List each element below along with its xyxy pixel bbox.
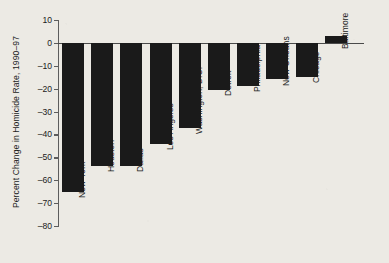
homicide-rate-change-bar-chart: Percent Change in Homicide Rate, 1990–97… [0, 0, 389, 263]
category-label: Philadelphia [252, 45, 262, 92]
y-tick-label: –70 [38, 198, 52, 208]
y-tick-label: –10 [38, 61, 52, 71]
category-label: Dallas [135, 149, 145, 173]
category-label: Houston [106, 140, 116, 172]
y-tick-label: 10 [42, 15, 52, 25]
y-tick-mark [54, 180, 59, 181]
plot-area: 100–10–20–30–40–50–60–70–80 New YorkHous… [58, 20, 368, 226]
category-label: New York [77, 161, 87, 197]
category-label: Los Angeles [165, 103, 175, 150]
category-label: Chicago [311, 52, 321, 84]
y-tick-mark [54, 112, 59, 113]
category-label: Detroit [223, 70, 233, 95]
category-label: New Orleans [281, 36, 291, 86]
y-tick-mark [54, 66, 59, 67]
category-label: Washington, D.C. [194, 66, 204, 133]
y-tick-mark [54, 203, 59, 204]
category-label: Baltimore [340, 13, 350, 49]
y-tick-label: –50 [38, 152, 52, 162]
y-tick-mark [54, 157, 59, 158]
y-tick-mark [54, 134, 59, 135]
y-tick-mark [54, 89, 59, 90]
y-axis-title: Percent Change in Homicide Rate, 1990–97 [11, 17, 21, 227]
y-tick-mark [54, 226, 59, 227]
y-tick-label: –60 [38, 175, 52, 185]
y-tick-label: –30 [38, 107, 52, 117]
y-tick-label: –80 [38, 221, 52, 231]
y-axis-spine [58, 20, 59, 226]
y-tick-label: –40 [38, 129, 52, 139]
y-tick-label: –20 [38, 84, 52, 94]
y-tick-mark [54, 20, 59, 21]
y-tick-label: 0 [47, 38, 52, 48]
